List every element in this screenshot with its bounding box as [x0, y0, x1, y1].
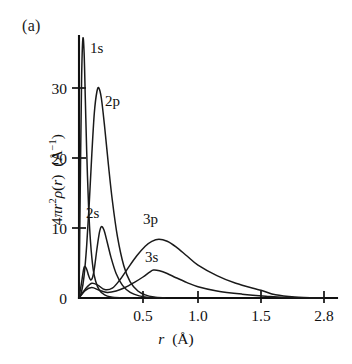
curve-label-3p: 3p — [143, 211, 158, 227]
x-tick-label-1p0: 1.0 — [188, 307, 208, 324]
x-tick-labels: 0.5 1.0 1.5 2.8 — [133, 307, 334, 324]
x-tick-label-1p5: 1.5 — [251, 307, 271, 324]
curve-label-2s: 2s — [86, 205, 100, 221]
figure-panel-a: (a) 30 20 10 0 0.5 1.0 1.5 2.8 — [0, 0, 352, 364]
y-axis-title-text: 4πr2ρ(r) (Å−1) — [49, 134, 66, 225]
curve-2p — [79, 87, 165, 298]
curve-1s — [79, 38, 133, 298]
axes — [72, 36, 337, 303]
x-axis-title: r (Å) — [0, 330, 352, 348]
curves — [79, 38, 324, 298]
curve-labels: 1s 2p 2s 3p 3s — [86, 40, 159, 265]
y-axis-title: 4πr2ρ(r) (Å−1) — [47, 90, 66, 270]
curve-label-1s: 1s — [90, 40, 104, 56]
x-tick-label-0p5: 0.5 — [133, 307, 153, 324]
x-axis-title-text: r (Å) — [158, 330, 193, 347]
curve-label-2p: 2p — [105, 93, 120, 109]
curve-label-3s: 3s — [145, 249, 159, 265]
x-tick-label-2p8: 2.8 — [314, 307, 334, 324]
y-tick-label-0: 0 — [59, 290, 67, 307]
curve-3p — [79, 239, 324, 298]
